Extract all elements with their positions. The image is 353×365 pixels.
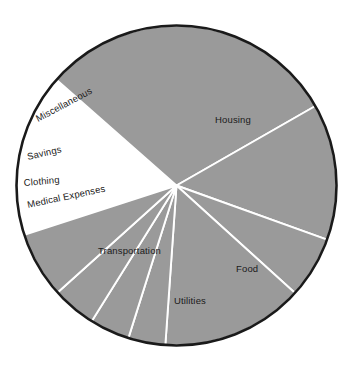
pie-chart-figure: HousingFoodUtilitiesTransportationMedica…: [0, 0, 353, 365]
pie-chart-canvas: HousingFoodUtilitiesTransportationMedica…: [0, 0, 353, 365]
pie-label-food: Food: [236, 263, 258, 274]
pie-label-housing: Housing: [215, 114, 251, 125]
pie-label-utilities: Utilities: [174, 295, 206, 306]
pie-label-transportation: Transportation: [98, 245, 161, 256]
